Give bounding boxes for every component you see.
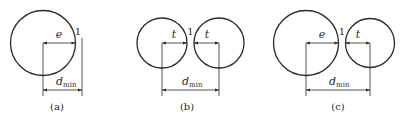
e-label: e (56, 28, 63, 41)
panel-a: e 1 dmin (a) (11, 11, 83, 113)
gap-label: 1 (187, 26, 193, 37)
right-t-label: t (205, 28, 210, 41)
dmin-label: dmin (182, 75, 203, 89)
dmin-label: dmin (329, 75, 350, 89)
left-t-label: t (172, 28, 177, 41)
panel-b: t 1 t dmin (b) (137, 18, 244, 112)
caption-c: (c) (331, 101, 345, 112)
gap-label: 1 (75, 26, 81, 37)
panel-c: e 1 t dmin (c) (274, 11, 395, 113)
diagram-canvas: e 1 dmin (a) t 1 t dmin (b) e 1 t dmin (… (0, 0, 405, 120)
t-label: t (356, 28, 361, 41)
caption-b: (b) (180, 101, 194, 112)
dmin-label: dmin (56, 75, 77, 89)
gap-label: 1 (339, 26, 345, 37)
e-label: e (319, 28, 326, 41)
caption-a: (a) (50, 101, 64, 112)
